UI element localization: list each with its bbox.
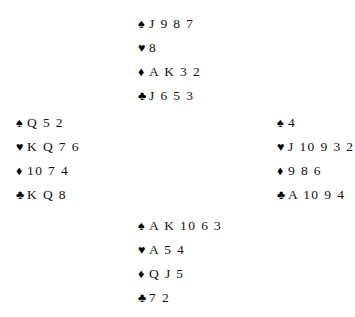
hand-west: ♠ Q 5 2 ♥ K Q 7 6 ♦ 10 7 4 ♣ K Q 8 xyxy=(16,111,80,207)
hand-south-clubs-cards: 7 2 xyxy=(149,286,170,310)
club-icon: ♣ xyxy=(138,286,149,310)
hand-north-diamonds-cards: A K 3 2 xyxy=(149,60,201,84)
hand-west-diamonds-cards: 10 7 4 xyxy=(27,159,69,183)
hand-west-spades-line: ♠ Q 5 2 xyxy=(16,111,80,135)
hand-east-hearts-cards: J 10 9 3 2 xyxy=(288,135,355,159)
heart-icon: ♥ xyxy=(138,36,149,60)
club-icon: ♣ xyxy=(277,183,288,207)
diamond-icon: ♦ xyxy=(138,262,149,286)
hand-east-clubs-cards: A 10 9 4 xyxy=(288,183,345,207)
hand-south-spades-line: ♠ A K 10 6 3 xyxy=(138,214,222,238)
club-icon: ♣ xyxy=(16,183,27,207)
hand-west-hearts-cards: K Q 7 6 xyxy=(27,135,80,159)
hand-north: ♠ J 9 8 7 ♥ 8 ♦ A K 3 2 ♣ J 6 5 3 xyxy=(138,12,201,108)
hand-south-hearts-cards: A 5 4 xyxy=(149,238,185,262)
hand-north-spades-cards: J 9 8 7 xyxy=(149,12,194,36)
hand-south-hearts-line: ♥ A 5 4 xyxy=(138,238,222,262)
hand-east-diamonds-line: ♦ 9 8 6 xyxy=(277,159,355,183)
heart-icon: ♥ xyxy=(138,238,149,262)
hand-east: ♠ 4 ♥ J 10 9 3 2 ♦ 9 8 6 ♣ A 10 9 4 xyxy=(277,111,355,207)
hand-north-diamonds-line: ♦ A K 3 2 xyxy=(138,60,201,84)
diamond-icon: ♦ xyxy=(277,159,288,183)
spade-icon: ♠ xyxy=(138,214,149,238)
spade-icon: ♠ xyxy=(277,111,288,135)
hand-west-hearts-line: ♥ K Q 7 6 xyxy=(16,135,80,159)
hand-east-hearts-line: ♥ J 10 9 3 2 xyxy=(277,135,355,159)
diamond-icon: ♦ xyxy=(16,159,27,183)
hand-west-spades-cards: Q 5 2 xyxy=(27,111,64,135)
hand-north-clubs-cards: J 6 5 3 xyxy=(149,84,194,108)
hand-north-clubs-line: ♣ J 6 5 3 xyxy=(138,84,201,108)
heart-icon: ♥ xyxy=(277,135,288,159)
hand-east-diamonds-cards: 9 8 6 xyxy=(288,159,322,183)
hand-west-diamonds-line: ♦ 10 7 4 xyxy=(16,159,80,183)
hand-south-diamonds-cards: Q J 5 xyxy=(149,262,185,286)
hand-east-spades-line: ♠ 4 xyxy=(277,111,355,135)
hand-west-clubs-cards: K Q 8 xyxy=(27,183,67,207)
hand-south-clubs-line: ♣ 7 2 xyxy=(138,286,222,310)
spade-icon: ♠ xyxy=(16,111,27,135)
hand-east-spades-cards: 4 xyxy=(288,111,296,135)
hand-east-clubs-line: ♣ A 10 9 4 xyxy=(277,183,355,207)
hand-north-spades-line: ♠ J 9 8 7 xyxy=(138,12,201,36)
diamond-icon: ♦ xyxy=(138,60,149,84)
hand-north-hearts-line: ♥ 8 xyxy=(138,36,201,60)
hand-south-diamonds-line: ♦ Q J 5 xyxy=(138,262,222,286)
club-icon: ♣ xyxy=(138,84,149,108)
heart-icon: ♥ xyxy=(16,135,27,159)
hand-south: ♠ A K 10 6 3 ♥ A 5 4 ♦ Q J 5 ♣ 7 2 xyxy=(138,214,222,310)
hand-north-hearts-cards: 8 xyxy=(149,36,157,60)
hand-south-spades-cards: A K 10 6 3 xyxy=(149,214,222,238)
hand-west-clubs-line: ♣ K Q 8 xyxy=(16,183,80,207)
spade-icon: ♠ xyxy=(138,12,149,36)
